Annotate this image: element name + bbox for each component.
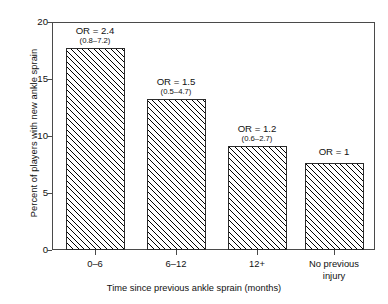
- y-tick-label-0: 0: [0, 244, 48, 256]
- x-tick-label-3-line2: injury: [286, 270, 382, 282]
- x-tick-mark-3: [334, 250, 335, 255]
- bar-1: [147, 99, 206, 250]
- y-tick-label-10: 10: [0, 130, 48, 142]
- x-tick-label-3-line1: No previous: [286, 258, 382, 270]
- bar-annotation-1: OR = 1.5 (0.5–4.7): [116, 76, 236, 96]
- x-tick-mark-2: [257, 250, 258, 255]
- odds-ratio-label-3: OR = 1: [274, 146, 388, 157]
- bar-2: [228, 146, 287, 250]
- y-tick-label-5: 5: [0, 187, 48, 199]
- bar-annotation-2: OR = 1.2 (0.6–2.7): [197, 123, 317, 143]
- confidence-interval-label-1: (0.5–4.7): [116, 87, 236, 96]
- confidence-interval-label-2: (0.6–2.7): [197, 134, 317, 143]
- x-tick-mark-0: [95, 250, 96, 255]
- odds-ratio-label-1: OR = 1.5: [116, 76, 236, 87]
- y-tick-label-15: 15: [0, 73, 48, 85]
- bar-chart-figure: Percent of players with new ankle sprain…: [0, 0, 388, 304]
- confidence-interval-label-0: (0.8–7.2): [35, 36, 155, 45]
- odds-ratio-label-2: OR = 1.2: [197, 123, 317, 134]
- y-tick-mark-0: [47, 250, 52, 251]
- bar-annotation-0: OR = 2.4 (0.8–7.2): [35, 25, 155, 45]
- bar-annotation-3: OR = 1: [274, 146, 388, 157]
- odds-ratio-label-0: OR = 2.4: [35, 25, 155, 36]
- x-tick-mark-1: [176, 250, 177, 255]
- x-tick-label-3: No previous injury: [286, 258, 382, 281]
- x-axis-title: Time since previous ankle sprain (months…: [0, 283, 388, 293]
- bar-3: [305, 163, 364, 250]
